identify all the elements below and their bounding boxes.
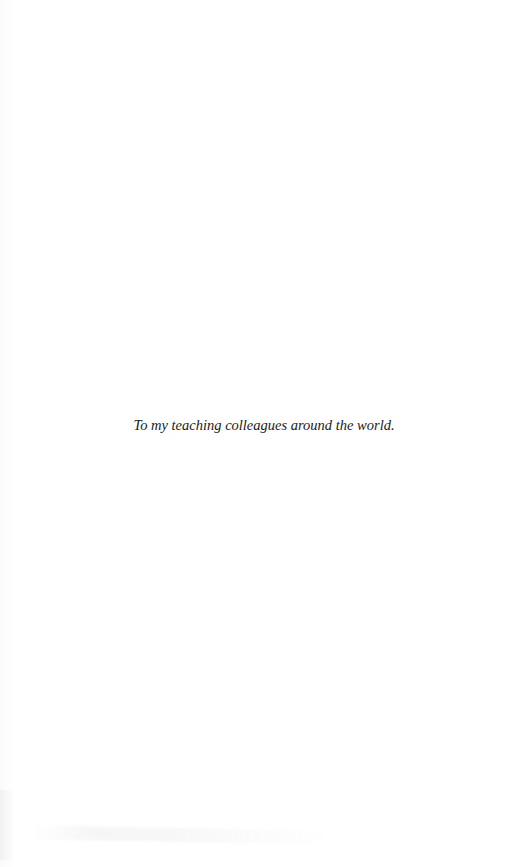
scan-bleed-through [30,825,330,844]
scan-edge-shadow [0,790,14,860]
dedication-page: To my teaching colleagues around the wor… [0,0,532,867]
dedication-text: To my teaching colleagues around the wor… [0,417,528,434]
